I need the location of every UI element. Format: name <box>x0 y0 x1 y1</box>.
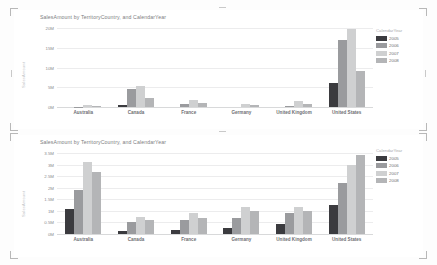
bar-cluster <box>223 153 259 234</box>
bar[interactable] <box>250 211 259 234</box>
bar[interactable] <box>303 104 312 107</box>
legend-bottom[interactable]: CalendarYear 2005200620072008 <box>376 148 402 186</box>
bar[interactable] <box>329 205 338 234</box>
bar-cluster <box>276 153 312 234</box>
resize-handle-top-right[interactable] <box>419 8 427 16</box>
bar[interactable] <box>294 101 303 107</box>
legend-item-label: 2008 <box>389 58 399 63</box>
bar-group: Australia <box>57 28 110 107</box>
legend-item-2006[interactable]: 2006 <box>376 43 402 48</box>
bar[interactable] <box>250 105 259 107</box>
resize-handle-bottom-left[interactable] <box>10 123 18 131</box>
resize-handle-bottom-right[interactable] <box>419 251 427 259</box>
chart-visual-top[interactable]: SalesAmount by TerritoryCountry, and Cal… <box>14 10 423 129</box>
y-axis-title-top: SalesAmount <box>21 62 26 88</box>
resize-handle-bottom-center[interactable] <box>219 131 226 132</box>
chart-visual-bottom[interactable]: SalesAmount by TerritoryCountry, and Cal… <box>14 135 423 257</box>
bar[interactable] <box>303 211 312 234</box>
bar-group: Canada <box>110 153 163 234</box>
bar-groups: AustraliaCanadaFranceGermanyUnited Kingd… <box>57 28 373 107</box>
legend-item-2006[interactable]: 2006 <box>376 163 402 168</box>
bar[interactable] <box>83 162 92 234</box>
resize-handle-top-left[interactable] <box>10 8 18 16</box>
legend-item-label: 2006 <box>389 163 399 168</box>
y-axis-tick-label: 2M <box>48 185 54 190</box>
legend-item-2005[interactable]: 2005 <box>376 156 402 161</box>
bar[interactable] <box>92 106 101 107</box>
bar-group: Canada <box>110 28 163 107</box>
bar[interactable] <box>136 217 145 234</box>
bar[interactable] <box>145 220 154 234</box>
bar[interactable] <box>198 103 207 107</box>
bar[interactable] <box>198 218 207 234</box>
bar-group: United States <box>320 28 373 107</box>
bar[interactable] <box>118 105 127 107</box>
x-axis-category-label: Australia <box>73 110 93 115</box>
bar-cluster <box>65 153 101 234</box>
y-axis-tick-label: 0M <box>48 232 54 237</box>
bar[interactable] <box>136 86 145 107</box>
bar[interactable] <box>241 207 250 234</box>
legend-swatch-icon <box>376 58 387 63</box>
bar[interactable] <box>127 89 136 107</box>
bar[interactable] <box>285 213 294 234</box>
bar[interactable] <box>65 209 74 234</box>
y-axis-tick-label: 5M <box>48 85 54 90</box>
bar[interactable] <box>127 222 136 234</box>
legend-item-2007[interactable]: 2007 <box>376 51 402 56</box>
legend-swatch-icon <box>376 156 387 161</box>
legend-item-2007[interactable]: 2007 <box>376 171 402 176</box>
bar[interactable] <box>145 98 154 107</box>
bar[interactable] <box>189 100 198 107</box>
bar[interactable] <box>189 213 198 234</box>
bar[interactable] <box>356 155 365 234</box>
bar[interactable] <box>276 224 285 234</box>
y-axis-tick-label: 3.5M <box>44 151 54 156</box>
y-axis-tick-label: 0M <box>48 105 54 110</box>
bar[interactable] <box>223 228 232 234</box>
bar-group: Germany <box>215 153 268 234</box>
resize-handle-top-center[interactable] <box>219 7 226 8</box>
legend-swatch-icon <box>376 163 387 168</box>
bar-cluster <box>171 153 207 234</box>
y-axis-tick-label: 20M <box>45 26 54 31</box>
bar[interactable] <box>74 190 83 234</box>
legend-top[interactable]: CalendarYear 2005200620072008 <box>376 28 402 66</box>
resize-handle-bottom-right[interactable] <box>419 123 427 131</box>
legend-item-2008[interactable]: 2008 <box>376 178 402 183</box>
legend-items[interactable]: 2005200620072008 <box>376 36 402 64</box>
resize-handle-top-left[interactable] <box>10 133 18 141</box>
y-axis-tick-label: 15M <box>45 45 54 50</box>
legend-item-2008[interactable]: 2008 <box>376 58 402 63</box>
bar[interactable] <box>92 172 101 234</box>
x-axis-category-label: France <box>181 110 196 115</box>
bar[interactable] <box>232 218 241 234</box>
legend-item-label: 2006 <box>389 43 399 48</box>
plot-area-bottom: 0M0.5M1M1.5M2M2.5M3M3.5MAustraliaCanadaF… <box>57 153 373 234</box>
x-axis-category-label: United States <box>332 110 361 115</box>
bar[interactable] <box>118 231 127 234</box>
x-axis-category-label: United Kingdom <box>276 110 311 115</box>
bar[interactable] <box>180 104 189 107</box>
resize-handle-left-center[interactable] <box>11 70 12 77</box>
bar-cluster <box>276 28 312 107</box>
resize-handle-bottom-left[interactable] <box>10 251 18 259</box>
legend-items[interactable]: 2005200620072008 <box>376 156 402 184</box>
bar[interactable] <box>338 183 347 234</box>
resize-handle-top-right[interactable] <box>419 133 427 141</box>
bar[interactable] <box>347 165 356 234</box>
bar[interactable] <box>171 230 180 234</box>
bar[interactable] <box>83 105 92 107</box>
y-axis-tick-label: 1.5M <box>44 197 54 202</box>
bar[interactable] <box>338 40 347 107</box>
bar[interactable] <box>285 106 294 107</box>
bar[interactable] <box>241 104 250 107</box>
resize-handle-right-center[interactable] <box>425 70 426 77</box>
bar[interactable] <box>329 83 338 107</box>
x-axis-category-label: United Kingdom <box>276 237 311 242</box>
bar[interactable] <box>294 207 303 234</box>
bar[interactable] <box>347 29 356 107</box>
legend-item-2005[interactable]: 2005 <box>376 36 402 41</box>
bar[interactable] <box>356 71 365 107</box>
bar[interactable] <box>180 220 189 234</box>
